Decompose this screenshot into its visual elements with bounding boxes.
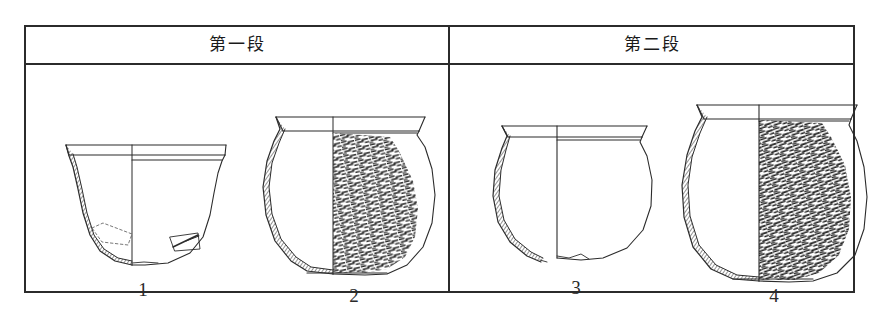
header-divider	[26, 63, 853, 65]
vessel-drawing-4	[667, 75, 872, 290]
vessel-drawing-3	[477, 100, 657, 270]
column-header-phase-1: 第一段	[26, 27, 448, 63]
typology-table: 第一段 第二段	[24, 25, 855, 293]
vessel-label-3: 3	[556, 277, 596, 299]
vessel-label-4: 4	[754, 285, 794, 307]
column-header-phase-2: 第二段	[450, 27, 855, 63]
vessel-label-1: 1	[123, 279, 163, 301]
pottery-typology-figure: 第一段 第二段	[0, 0, 873, 312]
column-divider	[448, 27, 450, 291]
vessel-drawing-2	[247, 85, 447, 280]
vessel-drawing-1	[40, 115, 230, 275]
vessel-label-2: 2	[334, 285, 374, 307]
